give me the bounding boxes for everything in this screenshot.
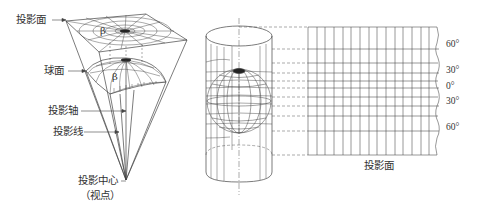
viewpoint-label: （视点） <box>80 190 120 201</box>
projection-center-label: 投影中心 <box>78 175 118 186</box>
beta-angle-label-sphere: β <box>112 72 118 82</box>
latitude-label-30-south: 30° <box>446 97 459 107</box>
latitude-label-30-north: 30° <box>446 66 459 76</box>
latitude-label-60-north: 60° <box>446 40 459 50</box>
projection-plane-label: 投影面 <box>16 14 46 25</box>
beta-angle-label-plane: β <box>100 26 106 36</box>
latitude-label-0: 0° <box>446 82 455 92</box>
projection-line-label: 投影线 <box>53 126 83 137</box>
projection-plane-grid <box>308 27 439 155</box>
developed-plane-label: 投影面 <box>364 160 394 171</box>
sphere-label: 球面 <box>44 65 64 76</box>
projection-axis-label: 投影轴 <box>48 105 78 116</box>
projection-plane-shape <box>66 14 187 52</box>
latitude-label-60-south: 60° <box>446 123 459 133</box>
